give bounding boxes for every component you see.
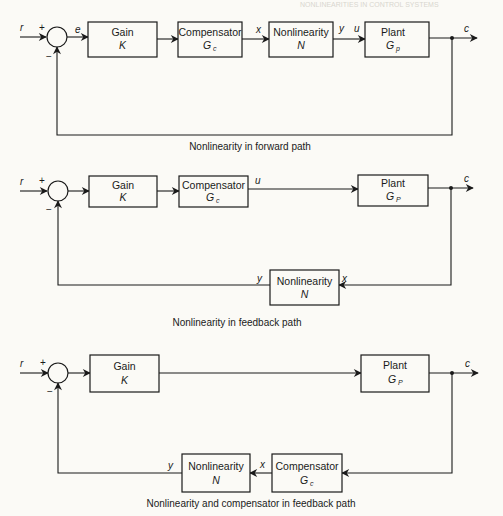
nonlinearity-symbol: N [297, 39, 305, 51]
signal-r: r [20, 358, 24, 369]
signal-x: x [341, 273, 348, 284]
signal-c: c [465, 358, 470, 369]
plant-symbol: G [388, 373, 396, 385]
feedback-path-left [58, 201, 270, 285]
compensator-subscript: c [310, 480, 314, 487]
compensator-subscript: c [216, 197, 220, 204]
caption: Nonlinearity in feedback path [173, 317, 302, 328]
block-diagrams-figure: NONLINEARITIES IN CONTROL SYSTEMS r + − … [0, 0, 503, 516]
plant-symbol: G [386, 190, 394, 202]
diagram-nonlinearity-compensator-feedback: r + − Gain K Plant G P c Compensator G c… [20, 355, 478, 509]
summing-junction [47, 27, 67, 47]
summing-junction [48, 363, 68, 383]
running-head: NONLINEARITIES IN CONTROL SYSTEMS [300, 1, 439, 8]
signal-c: c [464, 173, 469, 184]
signal-u: u [354, 23, 360, 34]
gain-symbol: K [121, 374, 129, 386]
minus-sign: − [47, 386, 53, 397]
compensator-symbol: G [300, 474, 308, 486]
diagram-forward-path: r + − e Gain K Compensator G c x Nonline… [20, 22, 477, 152]
compensator-label: Compensator [178, 26, 242, 38]
signal-r: r [20, 22, 24, 33]
nonlinearity-label: Nonlinearity [273, 26, 329, 38]
plant-subscript: P [396, 196, 401, 203]
signal-e: e [75, 24, 81, 35]
compensator-label: Compensator [275, 460, 339, 472]
diagram-feedback-path: r + − Gain K Compensator G c u Plant G P… [20, 173, 473, 328]
signal-x: x [259, 459, 266, 470]
signal-c: c [464, 23, 469, 34]
plant-subscript: p [395, 45, 400, 53]
plant-label: Plant [383, 359, 407, 371]
minus-sign: − [46, 204, 52, 215]
gain-symbol: K [119, 191, 127, 203]
minus-sign: − [46, 51, 52, 62]
plant-symbol: G [386, 39, 394, 51]
signal-y: y [338, 23, 345, 34]
signal-r: r [20, 176, 24, 187]
caption: Nonlinearity in forward path [189, 141, 311, 152]
nonlinearity-label: Nonlinearity [188, 460, 244, 472]
signal-u: u [255, 175, 261, 186]
compensator-label: Compensator [182, 179, 246, 191]
plus-sign: + [40, 357, 46, 368]
summing-junction [48, 181, 68, 201]
compensator-subscript: c [213, 45, 217, 52]
signal-x: x [255, 24, 262, 35]
compensator-symbol: G [203, 39, 211, 51]
plant-label: Plant [381, 177, 405, 189]
signal-y: y [167, 460, 174, 471]
nonlinearity-symbol: N [301, 288, 309, 300]
compensator-symbol: G [206, 191, 214, 203]
gain-label: Gain [112, 179, 134, 191]
plant-label: Plant [381, 26, 405, 38]
nonlinearity-label: Nonlinearity [277, 275, 333, 287]
gain-symbol: K [119, 39, 127, 51]
caption: Nonlinearity and compensator in feedback… [146, 498, 355, 509]
plant-subscript: P [398, 379, 403, 386]
plus-sign: + [39, 175, 45, 186]
gain-label: Gain [113, 360, 135, 372]
signal-y: y [256, 273, 263, 284]
gain-label: Gain [111, 26, 133, 38]
nonlinearity-symbol: N [212, 474, 220, 486]
feedback-path-left [58, 383, 182, 473]
plus-sign: + [39, 22, 45, 33]
